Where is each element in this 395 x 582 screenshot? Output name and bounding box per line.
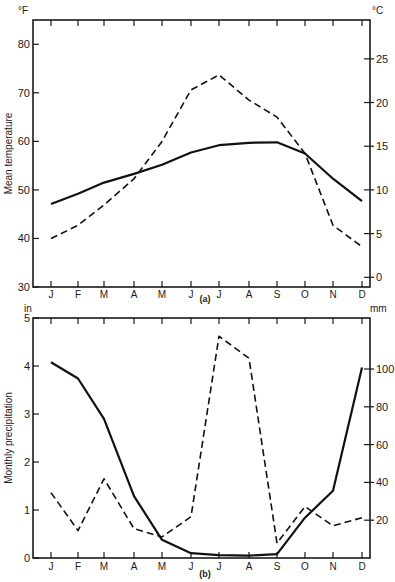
- panel-label: (a): [200, 294, 211, 304]
- left-unit-label: in: [24, 303, 32, 314]
- x-tick-label: F: [75, 289, 81, 300]
- right-y-tick-label: 5: [376, 228, 382, 240]
- right-y-tick-label: 20: [376, 514, 388, 526]
- y-tick-label: 4: [24, 360, 30, 372]
- x-tick-label: O: [301, 561, 309, 572]
- right-y-tick-label: 100: [376, 363, 394, 375]
- x-tick-label: M: [100, 289, 108, 300]
- y-tick-label: 60: [18, 135, 30, 147]
- series-line-dashed: [51, 75, 362, 247]
- x-tick-label: D: [358, 561, 365, 572]
- y-tick-label: 1: [24, 504, 30, 516]
- x-tick-label: N: [329, 561, 336, 572]
- x-tick-label: O: [301, 289, 309, 300]
- right-y-tick-label: 60: [376, 439, 388, 451]
- y-tick-label: 50: [18, 184, 30, 196]
- x-tick-label: D: [358, 289, 365, 300]
- plot-frame: [33, 20, 370, 287]
- x-tick-label: J: [189, 289, 194, 300]
- x-tick-label: M: [158, 289, 166, 300]
- y-tick-label: 30: [18, 281, 30, 293]
- y-tick-label: 3: [24, 408, 30, 420]
- x-tick-label: F: [75, 561, 81, 572]
- x-tick-label: J: [49, 289, 54, 300]
- chart-panel-temperature: JFMAMJJASOND3040506070800510152025°F°CMe…: [3, 5, 388, 304]
- x-tick-label: S: [274, 289, 281, 300]
- x-tick-label: J: [217, 561, 222, 572]
- right-y-tick-label: 20: [376, 97, 388, 109]
- right-unit-label: °C: [372, 5, 383, 16]
- panel-label: (b): [199, 569, 211, 579]
- right-y-tick-label: 15: [376, 140, 388, 152]
- x-tick-label: A: [131, 561, 138, 572]
- x-tick-label: M: [158, 561, 166, 572]
- y-tick-label: 80: [18, 38, 30, 50]
- left-unit-label: °F: [18, 5, 28, 16]
- y-axis-title: Monthly precipitation: [3, 392, 14, 484]
- x-tick-label: M: [100, 561, 108, 572]
- x-tick-label: A: [246, 561, 253, 572]
- right-y-tick-label: 0: [376, 271, 382, 283]
- x-tick-label: J: [217, 289, 222, 300]
- right-y-tick-label: 80: [376, 401, 388, 413]
- y-tick-label: 2: [24, 456, 30, 468]
- x-tick-label: A: [131, 289, 138, 300]
- plot-frame: [33, 318, 370, 558]
- series-line-solid: [51, 362, 362, 555]
- series-line-dashed: [51, 336, 362, 543]
- x-tick-label: N: [329, 289, 336, 300]
- y-tick-label: 40: [18, 232, 30, 244]
- right-y-tick-label: 25: [376, 53, 388, 65]
- right-y-tick-label: 40: [376, 476, 388, 488]
- chart-panel-precipitation: JFMAMJJASOND01234520406080100inmmMonthly…: [3, 303, 394, 579]
- x-tick-label: A: [246, 289, 253, 300]
- x-tick-label: J: [189, 561, 194, 572]
- y-axis-title: Mean temperature: [3, 112, 14, 194]
- x-tick-label: S: [274, 561, 281, 572]
- y-tick-label: 70: [18, 87, 30, 99]
- climate-chart-figure: JFMAMJJASOND3040506070800510152025°F°CMe…: [0, 0, 395, 582]
- series-line-solid: [51, 142, 362, 204]
- x-tick-label: J: [49, 561, 54, 572]
- right-y-tick-label: 10: [376, 184, 388, 196]
- right-unit-label: mm: [370, 303, 387, 314]
- y-tick-label: 0: [24, 552, 30, 564]
